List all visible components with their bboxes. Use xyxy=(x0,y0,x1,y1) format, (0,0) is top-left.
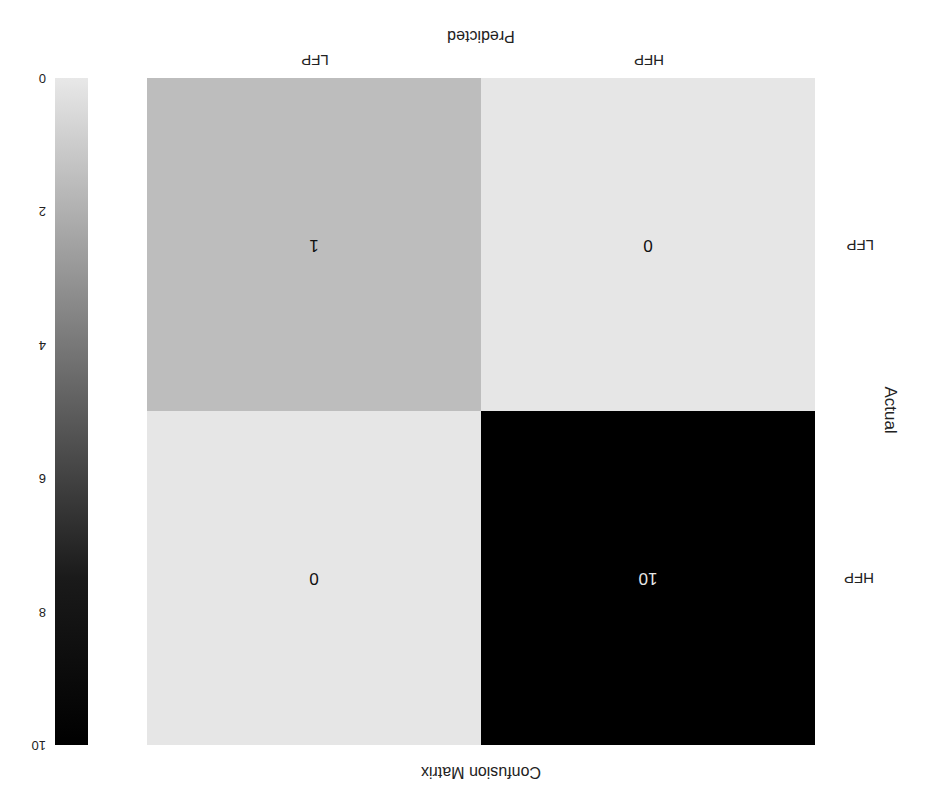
heatmap: 10 0 0 1 xyxy=(147,78,815,745)
heatmap-cell: 1 xyxy=(147,78,481,412)
y-tick-label: LFP xyxy=(846,237,874,254)
y-tick-label: HFP xyxy=(844,570,874,587)
heatmap-cell: 10 xyxy=(481,412,815,746)
heatmap-cell: 0 xyxy=(481,78,815,412)
colorbar xyxy=(55,78,88,745)
colorbar-tick: 10 xyxy=(32,738,46,753)
x-tick-label: LFP xyxy=(301,52,329,69)
cell-value: 10 xyxy=(639,568,658,588)
cell-value: 0 xyxy=(643,235,652,255)
cell-value: 0 xyxy=(309,568,318,588)
cell-value: 1 xyxy=(309,235,318,255)
x-axis-label: Predicted xyxy=(147,27,815,45)
heatmap-cell: 0 xyxy=(147,412,481,746)
x-tick-label: HFP xyxy=(634,52,664,69)
chart-title: Confusion Matrix xyxy=(36,763,926,781)
colorbar-tick: 8 xyxy=(39,605,46,620)
y-axis-label: Actual xyxy=(880,386,900,433)
colorbar-tick: 2 xyxy=(39,204,46,219)
colorbar-tick: 0 xyxy=(39,71,46,86)
confusion-matrix-figure: Confusion Matrix Actual HFP LFP 10 0 0 1… xyxy=(0,0,926,791)
colorbar-tick: 4 xyxy=(39,338,46,353)
colorbar-tick: 6 xyxy=(39,471,46,486)
